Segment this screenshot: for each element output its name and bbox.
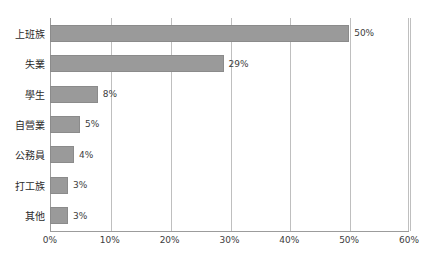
bar-chart: 上班族失業學生自營業公務員打工族其他 0%10%20%30%40%50%60%5…: [0, 0, 429, 265]
x-tick-label: 20%: [160, 235, 180, 245]
bar[interactable]: [50, 25, 349, 42]
category-label: 學生: [2, 79, 50, 109]
bar-row: 50%: [50, 18, 429, 48]
bar-row: 3%: [50, 201, 429, 231]
bar-row: 3%: [50, 170, 429, 200]
x-tick-label: 40%: [279, 235, 299, 245]
bar-row: 8%: [50, 79, 429, 109]
bar-value-label: 4%: [79, 150, 93, 160]
bar[interactable]: [50, 55, 224, 72]
bar-value-label: 8%: [103, 89, 117, 99]
bar[interactable]: [50, 207, 68, 224]
category-axis: 上班族失業學生自營業公務員打工族其他: [0, 18, 50, 231]
bar-value-label: 50%: [354, 28, 374, 38]
category-label: 公務員: [2, 140, 50, 170]
category-label: 自營業: [2, 109, 50, 139]
bar-row: 5%: [50, 109, 429, 139]
bar[interactable]: [50, 146, 74, 163]
bar-row: 29%: [50, 48, 429, 78]
bar[interactable]: [50, 86, 98, 103]
bar-value-label: 5%: [85, 119, 99, 129]
category-label: 其他: [2, 201, 50, 231]
bar[interactable]: [50, 116, 80, 133]
x-tick-label: 0%: [43, 235, 57, 245]
bar-value-label: 29%: [229, 59, 249, 69]
x-axis-line: [50, 231, 409, 232]
chart-title: [0, 0, 429, 4]
x-tick-label: 10%: [100, 235, 120, 245]
bar-value-label: 3%: [73, 211, 87, 221]
bar-value-label: 3%: [73, 180, 87, 190]
category-label: 打工族: [2, 170, 50, 200]
x-tick-label: 30%: [219, 235, 239, 245]
bar-row: 4%: [50, 140, 429, 170]
bar[interactable]: [50, 177, 68, 194]
x-tick-label: 60%: [399, 235, 419, 245]
category-label: 上班族: [2, 18, 50, 48]
category-label: 失業: [2, 48, 50, 78]
x-tick-label: 50%: [339, 235, 359, 245]
